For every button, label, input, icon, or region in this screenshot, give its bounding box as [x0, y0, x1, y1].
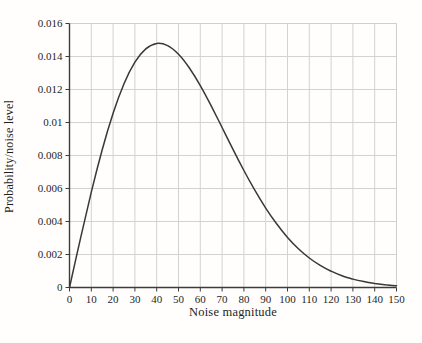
y-tick-label: 0.002: [38, 248, 63, 260]
x-tick-label: 80: [238, 293, 250, 305]
x-tick-label: 140: [366, 293, 383, 305]
y-tick-label: 0.016: [38, 17, 63, 29]
x-tick-label: 120: [323, 293, 340, 305]
noise-distribution-figure: 010203040506070809010011012013014015000.…: [0, 0, 422, 343]
x-tick-label: 20: [108, 293, 120, 305]
x-tick-label: 110: [301, 293, 318, 305]
data-curve: [70, 43, 397, 287]
y-tick-label: 0.008: [38, 149, 63, 161]
x-tick-label: 70: [217, 293, 229, 305]
x-tick-label: 100: [279, 293, 296, 305]
x-axis-label: Noise magnitude: [69, 305, 397, 320]
x-tick-label: 90: [260, 293, 272, 305]
x-tick-label: 10: [86, 293, 98, 305]
y-tick-label: 0.006: [38, 182, 63, 194]
x-tick-label: 50: [173, 293, 185, 305]
x-tick-label: 150: [388, 293, 405, 305]
x-tick-label: 40: [151, 293, 163, 305]
y-tick-label: 0.01: [43, 116, 62, 128]
chart-canvas: 010203040506070809010011012013014015000.…: [0, 0, 422, 343]
y-axis-label: Probability/noise level: [2, 57, 17, 257]
x-tick-label: 30: [129, 293, 141, 305]
y-tick-label: 0.014: [38, 50, 63, 62]
y-tick-label: 0.012: [38, 83, 63, 95]
x-tick-label: 60: [195, 293, 207, 305]
y-tick-label: 0: [57, 281, 63, 293]
x-tick-label: 0: [67, 293, 73, 305]
x-tick-label: 130: [345, 293, 362, 305]
y-tick-label: 0.004: [38, 215, 63, 227]
